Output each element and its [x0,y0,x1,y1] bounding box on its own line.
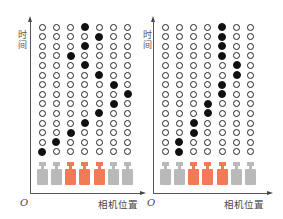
empty-dot [53,33,60,40]
empty-dot [96,100,103,107]
empty-dot [162,100,169,107]
empty-dot [190,43,197,50]
empty-dot [247,139,254,146]
empty-dot [247,110,254,117]
filled-dot [175,148,183,156]
empty-dot [124,33,131,40]
empty-dot [81,72,88,79]
empty-dot [247,33,254,40]
empty-dot [67,62,74,69]
filled-dot [81,23,89,31]
empty-dot [176,120,183,127]
empty-dot [53,62,60,69]
empty-dot [190,110,197,117]
filled-dot [95,33,103,41]
camera-inactive-icon [37,162,48,185]
empty-dot [190,100,197,107]
empty-dot [204,33,211,40]
empty-dot [190,81,197,88]
empty-dot [190,139,197,146]
empty-dot [247,24,254,31]
empty-dot [247,148,254,155]
camera-inactive-icon [231,162,242,185]
empty-dot [233,43,240,50]
empty-dot [176,91,183,98]
empty-dot [190,24,197,31]
empty-dot [81,110,88,117]
empty-dot [219,139,226,146]
origin-label: O [20,197,28,208]
empty-dot [67,24,74,31]
empty-dot [39,43,46,50]
camera-active-icon [94,162,105,185]
empty-dot [162,91,169,98]
empty-dot [67,120,74,127]
empty-dot [39,24,46,31]
empty-dot [219,120,226,127]
empty-dot [204,52,211,59]
camera-active-icon [217,162,228,185]
empty-dot [204,91,211,98]
empty-dot [176,62,183,69]
filled-dot [67,129,75,137]
filled-dot [175,138,183,146]
empty-dot [81,91,88,98]
empty-dot [233,100,240,107]
y-axis [30,20,31,194]
empty-dot [219,100,226,107]
empty-dot [110,129,117,136]
empty-dot [96,129,103,136]
empty-dot [67,81,74,88]
empty-dot [162,43,169,50]
empty-dot [39,52,46,59]
empty-dot [110,110,117,117]
empty-dot [162,52,169,59]
camera-active-icon [202,162,213,185]
empty-dot [53,52,60,59]
empty-dot [53,24,60,31]
empty-dot [204,62,211,69]
empty-dot [53,129,60,136]
empty-dot [53,120,60,127]
empty-dot [176,43,183,50]
empty-dot [53,43,60,50]
empty-dot [219,72,226,79]
camera-inactive-icon [174,162,185,185]
empty-dot [219,110,226,117]
camera-inactive-icon [160,162,171,185]
empty-dot [96,24,103,31]
left-panel: 时间 O 相机位置 [0,0,141,219]
empty-dot [124,43,131,50]
empty-dot [39,100,46,107]
right-panel: 时间 O 相机位置 [141,0,282,219]
x-axis-arrow-icon [267,191,273,195]
camera-inactive-icon [108,162,119,185]
empty-dot [110,139,117,146]
empty-dot [67,43,74,50]
empty-dot [53,81,60,88]
y-axis [153,20,154,194]
filled-dot [81,119,89,127]
filled-dot [67,52,75,60]
filled-dot [218,33,226,41]
empty-dot [162,62,169,69]
empty-dot [81,129,88,136]
empty-dot [53,148,60,155]
filled-dot [38,148,46,156]
empty-dot [247,72,254,79]
filled-dot [204,109,212,117]
empty-dot [247,100,254,107]
empty-dot [67,110,74,117]
camera-active-icon [188,162,199,185]
empty-dot [190,72,197,79]
empty-dot [110,33,117,40]
empty-dot [247,43,254,50]
empty-dot [162,33,169,40]
empty-dot [162,129,169,136]
empty-dot [110,43,117,50]
empty-dot [67,33,74,40]
empty-dot [219,129,226,136]
filled-dot [95,71,103,79]
empty-dot [162,81,169,88]
filled-dot [52,138,60,146]
